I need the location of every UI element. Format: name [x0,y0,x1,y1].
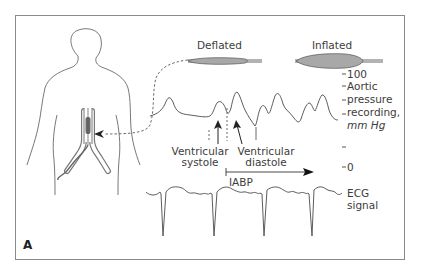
panel-label: A [23,238,32,252]
arrowhead-icon [94,130,104,138]
pressure-tick-0: 0 [347,162,354,173]
deflated-label: Deflated [197,40,242,51]
pressure-axis-ticks [342,74,346,167]
dashed-leader-arrow [104,60,188,134]
systole-label: Ventricular systole [168,146,232,168]
systole-arrow [214,120,222,144]
pressure-tick-100: 100 [347,69,367,80]
ecg-waveform [146,187,342,236]
aortic-pressure-waveform [150,92,338,126]
inflated-balloon [295,54,383,69]
diastole-label-line2: diastole [234,157,298,168]
iabp-timing-arrow [226,168,314,176]
ecg-label-line2: signal [347,200,378,211]
pressure-axis-label-line2: pressure [347,94,392,105]
diastole-label: Ventricular diastole [234,146,298,168]
systole-label-line2: systole [168,157,232,168]
pressure-axis-label-line3: recording, [347,107,400,118]
pressure-axis-units: mm Hg [347,120,385,131]
diastole-arrow [233,120,242,144]
iabp-label: IABP [229,177,253,188]
pressure-axis-label-line1: Aortic [347,81,378,92]
deflated-balloon [188,58,262,65]
ecg-label-line1: ECG [347,188,369,199]
aorta-with-balloon-catheter [58,108,108,180]
inflated-label: Inflated [312,40,352,51]
